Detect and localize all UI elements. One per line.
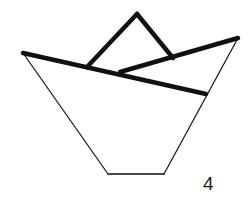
peak-right-line <box>137 14 173 58</box>
front-fold-line <box>23 53 206 94</box>
step-number-label: 4 <box>203 174 214 194</box>
back-fold-line <box>120 38 238 72</box>
peak-left-line <box>87 14 137 67</box>
thick-fold-lines <box>23 14 238 94</box>
boat-fold-diagram <box>0 0 252 199</box>
